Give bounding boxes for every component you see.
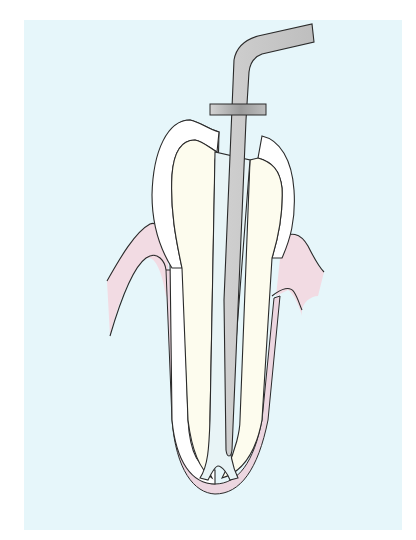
rubber-stop <box>210 104 266 115</box>
tooth-diagram <box>0 0 416 540</box>
